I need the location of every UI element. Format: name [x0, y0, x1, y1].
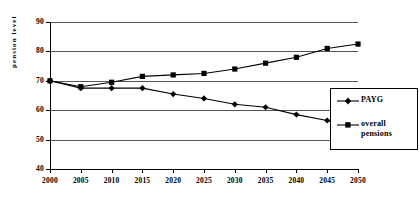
data-series-layer [50, 22, 358, 169]
y-tick-label: 70 [20, 77, 44, 84]
legend-label: overallpensions [361, 119, 392, 139]
y-tick-label: 40 [20, 165, 44, 172]
data-point-marker [294, 55, 299, 60]
series-line-overall-pensions [50, 44, 358, 87]
series-line-payg [50, 81, 358, 128]
x-tick-label: 2025 [187, 176, 221, 185]
data-point-marker [170, 91, 176, 97]
y-tick-label: 50 [20, 136, 44, 143]
x-tick-mark [327, 169, 328, 173]
x-tick-label: 2050 [341, 176, 375, 185]
x-tick-mark [112, 169, 113, 173]
y-tick-label: 90 [20, 18, 44, 25]
data-point-marker [355, 41, 360, 46]
x-tick-mark [358, 169, 359, 173]
data-point-marker [109, 80, 114, 85]
data-point-marker [139, 85, 145, 91]
y-tick-label: 60 [20, 106, 44, 113]
legend-item-payg[interactable]: PAYG [335, 95, 383, 106]
plot-area: 908070605040 200020052010201520202025203… [50, 22, 358, 169]
data-point-marker [325, 46, 330, 51]
x-tick-label: 2000 [33, 176, 67, 185]
data-point-marker [232, 66, 237, 71]
x-tick-mark [81, 169, 82, 173]
x-tick-label: 2015 [125, 176, 159, 185]
y-tick-label: 80 [20, 47, 44, 54]
legend-marker-square-icon [335, 120, 361, 130]
legend-item-overall-pensions[interactable]: overallpensions [335, 119, 392, 139]
data-point-marker [140, 74, 145, 79]
x-tick-mark [204, 169, 205, 173]
x-tick-mark [296, 169, 297, 173]
x-tick-mark [142, 169, 143, 173]
legend-label: PAYG [361, 95, 383, 105]
x-tick-label: 2035 [249, 176, 283, 185]
x-tick-mark [266, 169, 267, 173]
data-point-marker [293, 112, 299, 118]
x-tick-label: 2030 [218, 176, 252, 185]
x-tick-mark [235, 169, 236, 173]
data-point-marker [201, 71, 206, 76]
x-tick-mark [50, 169, 51, 173]
legend-marker-diamond-icon [335, 96, 361, 106]
x-tick-label: 2040 [279, 176, 313, 185]
chart-figure: pension level 908070605040 2000200520102… [0, 0, 420, 205]
data-point-marker [109, 85, 115, 91]
legend: PAYGoverallpensions [330, 88, 418, 150]
x-tick-label: 2020 [156, 176, 190, 185]
data-point-marker [232, 101, 238, 107]
x-tick-mark [173, 169, 174, 173]
x-tick-label: 2005 [64, 176, 98, 185]
data-point-marker [263, 104, 269, 110]
data-point-marker [78, 84, 83, 89]
data-point-marker [201, 95, 207, 101]
x-tick-label: 2045 [310, 176, 344, 185]
x-tick-label: 2010 [95, 176, 129, 185]
y-axis-title: pension level [10, 15, 18, 68]
data-point-marker [47, 78, 52, 83]
data-point-marker [171, 72, 176, 77]
data-point-marker [263, 61, 268, 66]
